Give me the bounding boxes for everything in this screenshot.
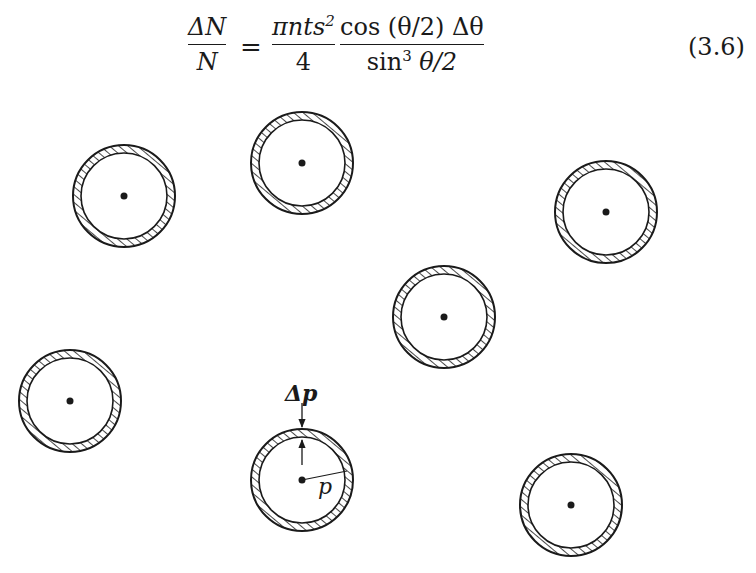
target-circle [251,112,353,214]
scattering-center-dot [603,209,610,216]
target-circle [19,350,121,452]
target-circles [19,112,657,556]
scattering-center-dot [67,398,74,405]
scattering-center-dot [441,314,448,321]
scattering-center-dot [121,193,128,200]
p-label: p [318,476,332,498]
delta-p-label: Δp [285,382,317,404]
target-circle [555,161,657,263]
scattering-figure [0,0,756,573]
target-circle [520,454,622,556]
target-circle [393,266,495,368]
scattering-center-dot [299,160,306,167]
scattering-center-dot [568,502,575,509]
target-circle [73,145,175,247]
